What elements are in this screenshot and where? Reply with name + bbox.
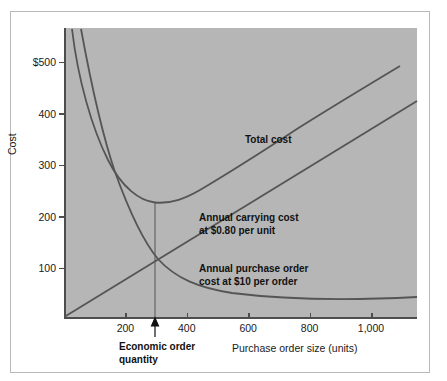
x-tick-800: [310, 313, 312, 319]
plot-wrapper: $500 400 300 200 100 200 400 600 800 1,0…: [0, 0, 447, 381]
x-tick-1000: [371, 313, 373, 319]
chart-figure: $500 400 300 200 100 200 400 600 800 1,0…: [0, 0, 447, 381]
x-tick-600: [248, 313, 250, 319]
y-tick-label-400: 400: [16, 108, 56, 120]
y-tick-label-500: $500: [16, 56, 56, 68]
y-tick-500: [59, 62, 65, 64]
annotation-purchase-order-cost: Annual purchase order cost at $10 per or…: [199, 263, 308, 288]
y-tick-label-300: 300: [16, 159, 56, 171]
annotation-total-cost: Total cost: [245, 134, 291, 147]
y-axis-line: [64, 28, 66, 318]
y-axis-title: Cost: [6, 133, 18, 155]
y-tick-300: [59, 165, 65, 167]
x-tick-label-1000: 1,000: [346, 322, 396, 334]
x-axis-line: [64, 317, 417, 319]
y-tick-label-100: 100: [16, 262, 56, 274]
x-axis-title: Purchase order size (units): [232, 342, 357, 354]
x-tick-200: [125, 313, 127, 319]
x-tick-400: [187, 313, 189, 319]
y-tick-label-200: 200: [16, 211, 56, 223]
x-tick-label-800: 800: [285, 322, 335, 334]
y-tick-100: [59, 268, 65, 270]
annotation-economic-order-quantity: Economic order quantity: [119, 341, 195, 366]
y-tick-200: [59, 216, 65, 218]
eoq-arrow-marker: [152, 318, 159, 337]
y-tick-400: [59, 113, 65, 115]
x-tick-label-600: 600: [223, 322, 273, 334]
x-tick-label-400: 400: [162, 322, 212, 334]
x-tick-label-200: 200: [100, 322, 150, 334]
annotation-carrying-cost: Annual carrying cost at $0.80 per unit: [199, 212, 298, 237]
